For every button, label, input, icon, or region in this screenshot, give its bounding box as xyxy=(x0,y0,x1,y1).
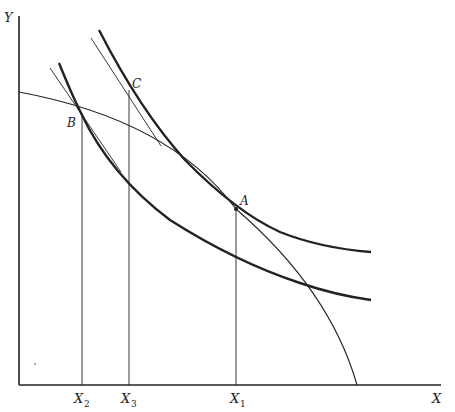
svg-text:X: X xyxy=(229,391,240,406)
tick-label-x3: X 3 xyxy=(120,391,137,409)
tangent-at-c xyxy=(91,38,161,146)
point-a-marker xyxy=(234,207,238,211)
svg-text:2: 2 xyxy=(84,399,90,409)
higher-indifference-curve xyxy=(99,30,371,252)
svg-text:X: X xyxy=(120,391,131,406)
tangent-at-b xyxy=(50,68,121,172)
stray-dot xyxy=(34,363,36,365)
svg-text:1: 1 xyxy=(240,399,246,409)
diagram-canvas: Y X A B C X 2 X 3 X 1 xyxy=(0,0,455,412)
tick-label-x2: X 2 xyxy=(73,391,90,409)
point-b-label: B xyxy=(66,116,76,130)
lower-indifference-curve xyxy=(59,63,371,300)
point-c-label: C xyxy=(132,77,141,91)
svg-text:X: X xyxy=(73,391,84,406)
production-possibility-frontier xyxy=(19,92,357,385)
point-a-label: A xyxy=(239,194,249,208)
svg-text:3: 3 xyxy=(131,399,137,409)
y-axis-label: Y xyxy=(4,10,14,25)
x-axis-label: X xyxy=(431,391,442,406)
tick-label-x1: X 1 xyxy=(229,391,246,409)
